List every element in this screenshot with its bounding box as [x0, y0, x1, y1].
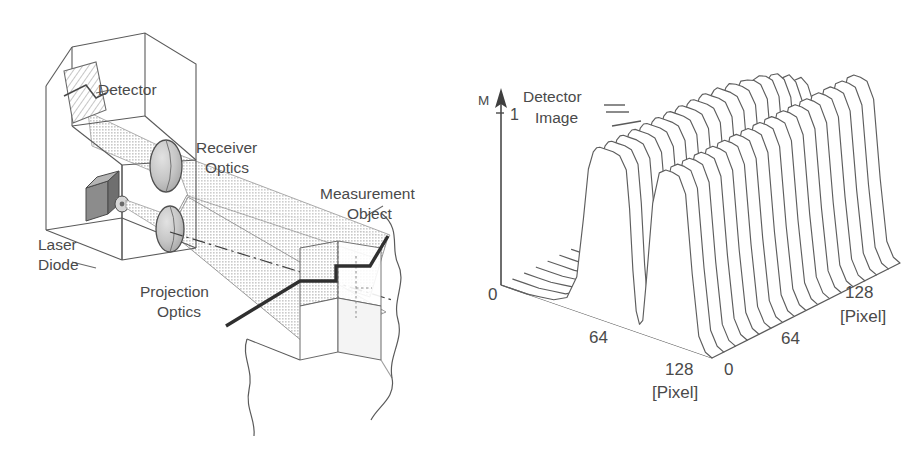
y-axis-unit: [Pixel] — [840, 307, 886, 326]
label-measurement-object-1: Measurement — [320, 185, 415, 202]
label-projection-optics-2: Optics — [157, 303, 201, 320]
y-tick-64: 64 — [781, 329, 800, 348]
label-measurement-object-2: Object — [347, 205, 392, 222]
label-projection-optics-1: Projection — [140, 283, 209, 300]
figure-canvas: Detector Receiver Optics Measurement Obj… — [0, 0, 919, 454]
x-tick-64: 64 — [589, 328, 608, 347]
annotation-detector: Detector — [523, 88, 582, 105]
z-tick-1: 1 — [510, 106, 519, 123]
y-tick-0: 0 — [724, 360, 733, 379]
label-laser-diode-2: Diode — [38, 256, 79, 273]
z-axis-label-M: M — [478, 93, 489, 108]
receiver-optics-lens — [150, 140, 182, 192]
y-tick-128: 128 — [845, 283, 873, 302]
label-laser-diode-1: Laser — [38, 236, 77, 253]
label-receiver-optics-2: Optics — [205, 159, 249, 176]
label-detector: Detector — [98, 81, 157, 98]
x-axis-unit: [Pixel] — [652, 383, 698, 402]
label-receiver-optics-1: Receiver — [196, 139, 257, 156]
annotation-image: Image — [535, 109, 578, 126]
origin-tick-0: 0 — [488, 285, 497, 304]
x-tick-128: 128 — [665, 360, 693, 379]
projection-optics-lens — [156, 206, 184, 252]
